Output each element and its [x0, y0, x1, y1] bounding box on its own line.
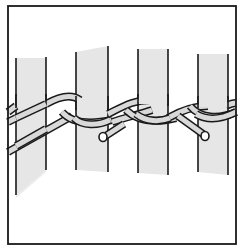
weaver-end-1: [99, 133, 107, 142]
stake-2: [76, 46, 108, 172]
weaving-illustration: [0, 0, 244, 252]
weaver-end-2: [201, 132, 209, 141]
